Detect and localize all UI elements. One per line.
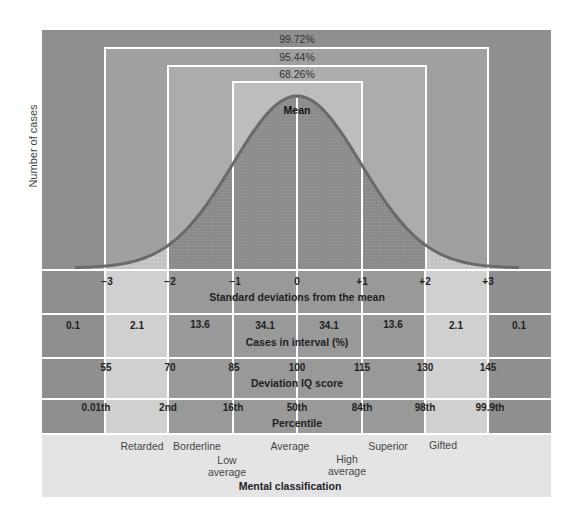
cases-value: 13.6 bbox=[383, 319, 402, 330]
sd-tick: 0 bbox=[294, 276, 300, 287]
percentile-value: 84th bbox=[352, 402, 373, 413]
sd-tick: +1 bbox=[356, 276, 367, 287]
sd-tick: −3 bbox=[101, 276, 112, 287]
cases-value: 34.1 bbox=[255, 320, 274, 331]
percentile-value: 99.9th bbox=[476, 402, 505, 413]
cases-value: 2.1 bbox=[449, 320, 463, 331]
class-high-average: High average bbox=[328, 453, 366, 477]
band-95-label: 95.44% bbox=[279, 51, 315, 63]
mean-label: Mean bbox=[284, 104, 311, 116]
percentile-value: 0.01th bbox=[82, 402, 111, 413]
sd-row-title: Standard deviations from the mean bbox=[209, 291, 385, 303]
class-borderline: Borderline bbox=[173, 440, 221, 452]
band-68-label: 68.26% bbox=[279, 68, 315, 80]
iq-value: 55 bbox=[100, 362, 111, 373]
band-99-label: 99.72% bbox=[279, 33, 315, 45]
sd-tick: +3 bbox=[482, 276, 493, 287]
iq-value: 85 bbox=[228, 362, 239, 373]
class-low-average-line2: average bbox=[208, 466, 246, 478]
class-retarded: Retarded bbox=[120, 440, 163, 452]
cases-value: 13.6 bbox=[190, 319, 209, 330]
percentile-value: 50th bbox=[287, 402, 308, 413]
class-row-title: Mental classification bbox=[239, 480, 342, 492]
class-gifted: Gifted bbox=[429, 439, 457, 451]
class-low-average-line1: Low bbox=[208, 454, 246, 466]
cases-row-title: Cases in interval (%) bbox=[246, 336, 349, 348]
iq-value: 100 bbox=[289, 362, 306, 373]
class-high-average-line1: High bbox=[328, 453, 366, 465]
cases-value: 0.1 bbox=[66, 320, 80, 331]
sd-tick: −2 bbox=[164, 276, 175, 287]
sd-tick: −1 bbox=[229, 276, 240, 287]
percentile-value: 2nd bbox=[159, 402, 177, 413]
cases-value: 0.1 bbox=[512, 320, 526, 331]
class-average: Average bbox=[271, 440, 310, 452]
percentile-value: 98th bbox=[415, 402, 436, 413]
iq-value: 70 bbox=[164, 362, 175, 373]
class-superior: Superior bbox=[368, 440, 408, 452]
class-high-average-line2: average bbox=[328, 465, 366, 477]
class-low-average: Low average bbox=[208, 454, 246, 478]
sd-tick: +2 bbox=[419, 276, 430, 287]
cases-value: 34.1 bbox=[319, 320, 338, 331]
iq-value: 115 bbox=[354, 362, 370, 373]
iq-value: 145 bbox=[480, 362, 497, 373]
iq-value: 130 bbox=[417, 362, 434, 373]
cases-value: 2.1 bbox=[130, 320, 144, 331]
percentile-value: 16th bbox=[223, 402, 244, 413]
iq-row-title: Deviation IQ score bbox=[251, 377, 343, 389]
percentile-row-title: Percentile bbox=[272, 417, 322, 429]
